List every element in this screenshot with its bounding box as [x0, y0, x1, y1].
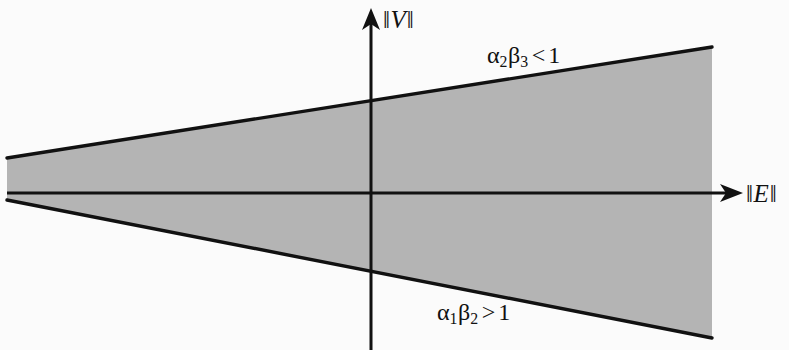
norm-bar-left: ‖	[746, 181, 753, 206]
relation-symbol: >	[479, 299, 499, 325]
x-axis-label: ‖E‖	[746, 181, 776, 206]
alpha-subscript: 2	[500, 53, 508, 70]
figure-container: ‖V‖ ‖E‖ α2β3<1 α1β2>1	[0, 0, 789, 350]
relation-symbol: <	[529, 42, 549, 68]
y-axis-label: ‖V‖	[383, 7, 413, 32]
relation-value: 1	[498, 299, 510, 325]
beta-symbol: β	[508, 42, 520, 68]
alpha-symbol: α	[437, 299, 450, 325]
lower-condition-label: α1β2>1	[437, 300, 510, 327]
relation-value: 1	[548, 42, 560, 68]
norm-bar-left: ‖	[383, 7, 390, 32]
x-axis-symbol: E	[753, 180, 770, 207]
beta-subscript: 2	[470, 310, 478, 327]
y-axis-symbol: V	[390, 6, 407, 33]
alpha-subscript: 1	[450, 310, 458, 327]
beta-symbol: β	[458, 299, 470, 325]
beta-subscript: 3	[520, 53, 528, 70]
alpha-symbol: α	[487, 42, 500, 68]
upper-condition-label: α2β3<1	[487, 43, 560, 70]
cone-diagram-svg	[0, 0, 789, 350]
norm-bar-right: ‖	[770, 181, 777, 206]
norm-bar-right: ‖	[407, 7, 414, 32]
